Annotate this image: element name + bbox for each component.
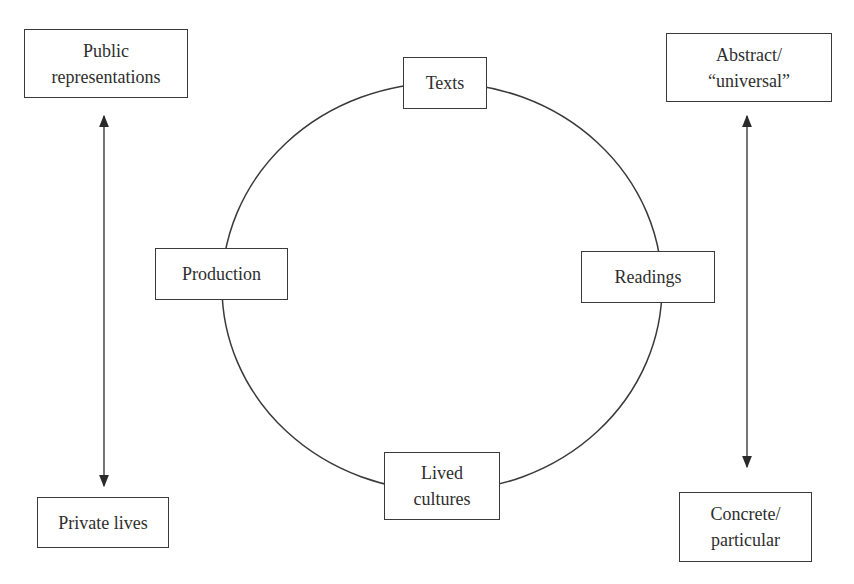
abstract-line1: Abstract/ — [716, 42, 782, 68]
abstract-universal-box: Abstract/ “universal” — [666, 33, 832, 102]
concrete-particular-box: Concrete/ particular — [679, 492, 812, 562]
public-representations-line2: representations — [52, 64, 161, 90]
public-representations-box: Public representations — [24, 29, 188, 98]
readings-box: Readings — [581, 251, 715, 303]
concrete-line1: Concrete/ — [711, 501, 781, 527]
public-representations-line1: Public — [83, 38, 129, 64]
production-box: Production — [155, 248, 288, 300]
production-label: Production — [182, 261, 261, 287]
texts-box: Texts — [403, 57, 487, 109]
lived-cultures-box: Lived cultures — [384, 452, 500, 520]
lived-cultures-line2: cultures — [414, 486, 471, 512]
abstract-line2: “universal” — [708, 68, 790, 94]
private-lives-label: Private lives — [58, 510, 147, 536]
readings-label: Readings — [615, 264, 682, 290]
concrete-line2: particular — [711, 527, 780, 553]
private-lives-box: Private lives — [37, 497, 169, 548]
texts-label: Texts — [426, 70, 465, 96]
lived-cultures-line1: Lived — [421, 460, 463, 486]
